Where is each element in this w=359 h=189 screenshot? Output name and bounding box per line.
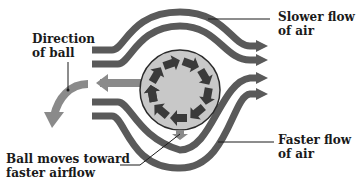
ball-moves-line1: Ball moves toward: [6, 152, 130, 166]
direction-of-ball-label: Direction of ball: [32, 32, 95, 60]
slower-flow-line2: of air: [278, 24, 355, 38]
faster-airflow-arrowheads: [256, 72, 268, 100]
direction-of-ball-line1: Direction: [32, 32, 95, 46]
ball-moves-label: Ball moves toward faster airflow: [6, 152, 130, 180]
slower-airflow-arrowheads: [256, 40, 268, 66]
ball-moves-line2: faster airflow: [6, 166, 130, 180]
slower-flow-label: Slower flow of air: [278, 10, 355, 38]
faster-flow-line1: Faster flow: [278, 133, 351, 147]
direction-of-ball-line2: of ball: [32, 46, 95, 60]
direction-of-ball-arrow: [44, 84, 88, 128]
slower-flow-line1: Slower flow: [278, 10, 355, 24]
magnus-effect-diagram: Direction of ball Slower flow of air Fas…: [0, 0, 359, 189]
faster-flow-label: Faster flow of air: [278, 133, 351, 161]
faster-flow-line2: of air: [278, 147, 351, 161]
center-stream-arrow: [96, 74, 142, 92]
